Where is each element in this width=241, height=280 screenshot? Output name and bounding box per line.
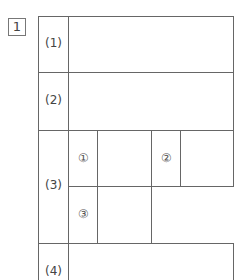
row3-mid-divider: [151, 130, 152, 243]
row-label-4: (4): [39, 264, 68, 278]
table-right-border-top: [233, 16, 234, 187]
answer-cell-3-2[interactable]: [181, 131, 233, 186]
subpart-label-3: ③: [69, 207, 97, 221]
question-number-box: 1: [8, 18, 26, 36]
subpart-label-1: ①: [69, 151, 97, 165]
answer-cell-4[interactable]: [69, 244, 233, 280]
table-right-border-bottom: [233, 243, 234, 280]
answer-cell-1[interactable]: [69, 17, 233, 72]
subpart-label-2: ②: [152, 151, 180, 165]
answer-cell-3-1[interactable]: [98, 131, 151, 186]
row-label-2: (2): [39, 93, 68, 107]
answer-cell-3-3[interactable]: [98, 187, 151, 243]
answer-cell-2[interactable]: [69, 73, 233, 130]
row-label-1: (1): [39, 36, 68, 50]
table-left-border: [38, 16, 39, 280]
row-label-3: (3): [39, 178, 68, 192]
